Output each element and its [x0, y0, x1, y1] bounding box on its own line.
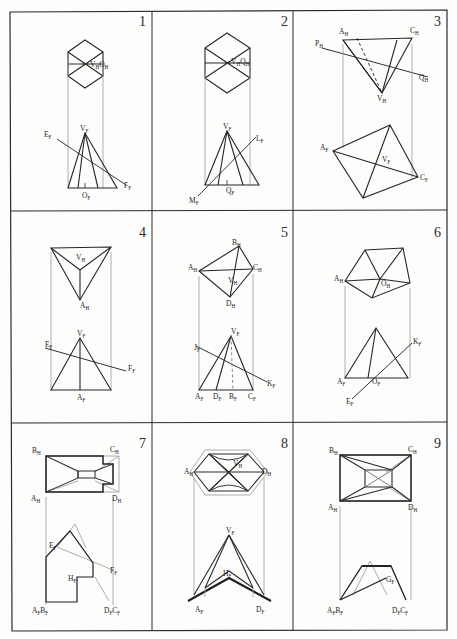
panel-number-4: 4 — [139, 225, 146, 240]
panel-number-3: 3 — [434, 14, 441, 29]
paper-background — [0, 0, 457, 639]
panel-number-5: 5 — [281, 225, 288, 240]
panel-number-6: 6 — [434, 225, 441, 240]
panel-number-9: 9 — [434, 436, 441, 451]
drawing-sheet: 1 VHOH VF EF OF FF 2 — [0, 0, 457, 639]
panel-number-1: 1 — [139, 14, 146, 29]
panel-number-8: 8 — [281, 436, 288, 451]
panel-number-7: 7 — [139, 436, 146, 451]
panel-number-2: 2 — [281, 14, 288, 29]
